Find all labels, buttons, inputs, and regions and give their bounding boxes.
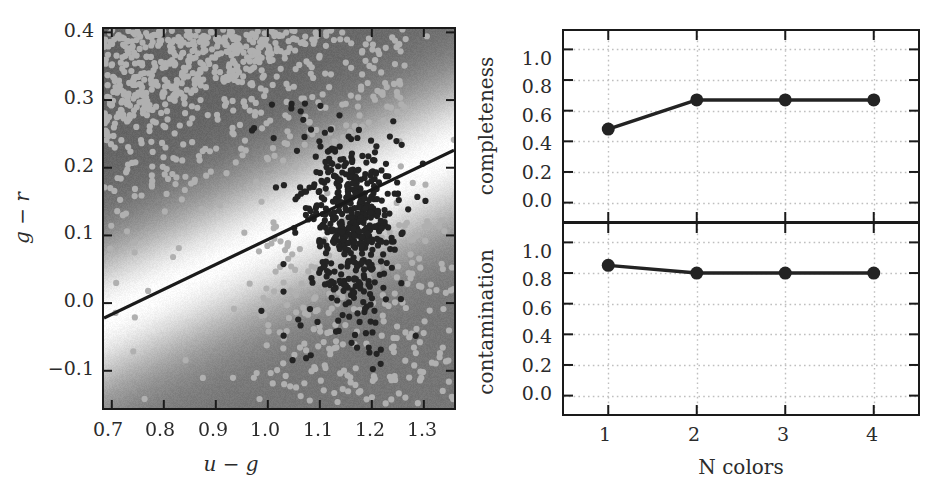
- contamination-ytick-label-1: 0.8: [500, 268, 552, 290]
- completeness-canvas: [564, 31, 918, 221]
- contamination-ytick-label-3: 0.4: [500, 325, 552, 347]
- contamination-ytick-label-2: 0.6: [500, 297, 552, 319]
- right-xtick-label-3: 4: [846, 423, 898, 445]
- right-xtick-label-0: 1: [579, 423, 631, 445]
- completeness-yaxis-title: completeness: [474, 57, 498, 195]
- scatter-points-layer: [104, 29, 454, 408]
- completeness-ytick-label-4: 0.2: [500, 161, 552, 183]
- contamination-ytick-label-4: 0.2: [500, 354, 552, 376]
- left-ytick-label-5: −0.1: [38, 357, 94, 379]
- left-ytick-label-3: 0.1: [48, 221, 94, 243]
- left-xtick-label-1: 0.8: [134, 418, 186, 440]
- scatter-plot-panel: [102, 27, 456, 410]
- contamination-plot-panel: [562, 222, 920, 416]
- left-yaxis-title-a: g: [10, 231, 34, 244]
- left-yaxis-title-b: r: [10, 192, 34, 202]
- completeness-plot-panel: [562, 29, 920, 223]
- left-yaxis-title-op: −: [10, 202, 34, 231]
- contamination-yaxis-title: contamination: [474, 249, 498, 395]
- completeness-ytick-label-2: 0.6: [500, 104, 552, 126]
- left-ytick-label-0: 0.4: [48, 19, 94, 41]
- left-xtick-label-2: 0.9: [187, 418, 239, 440]
- left-ytick-label-1: 0.3: [48, 86, 94, 108]
- left-xaxis-title-b: g: [246, 452, 259, 476]
- right-xtick-label-2: 3: [757, 423, 809, 445]
- right-xaxis-title: N colors: [698, 455, 783, 479]
- left-ytick-label-4: 0.0: [48, 289, 94, 311]
- left-xtick-label-0: 0.7: [82, 418, 134, 440]
- completeness-ytick-label-3: 0.4: [500, 132, 552, 154]
- contamination-ytick-label-0: 1.0: [500, 240, 552, 262]
- left-xaxis-title-op: −: [216, 452, 245, 476]
- contamination-ytick-label-5: 0.0: [500, 382, 552, 404]
- contamination-canvas: [564, 224, 918, 414]
- left-xtick-label-3: 1.0: [239, 418, 291, 440]
- completeness-ytick-label-1: 0.8: [500, 75, 552, 97]
- left-xtick-label-5: 1.2: [344, 418, 396, 440]
- left-xaxis-title-a: u: [203, 452, 216, 476]
- right-xtick-label-1: 2: [668, 423, 720, 445]
- completeness-ytick-label-5: 0.0: [500, 189, 552, 211]
- left-xtick-label-4: 1.1: [292, 418, 344, 440]
- completeness-ytick-label-0: 1.0: [500, 47, 552, 69]
- left-xtick-label-6: 1.3: [396, 418, 448, 440]
- figure-root: 0.4 0.3 0.2 0.1 0.0 −0.1 0.7 0.8 0.9 1.0…: [0, 0, 938, 494]
- left-ytick-label-2: 0.2: [48, 154, 94, 176]
- left-xaxis-title: u − g: [203, 452, 258, 476]
- left-yaxis-title: g − r: [10, 192, 34, 244]
